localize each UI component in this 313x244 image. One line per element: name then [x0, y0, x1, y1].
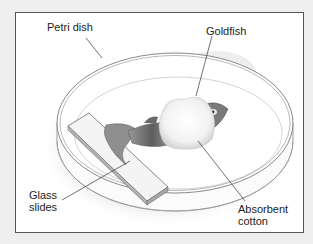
- label-glass-slides: Glass slides: [29, 189, 57, 213]
- petri-dish-illustration: [16, 13, 305, 234]
- label-petri-dish: Petri dish: [47, 21, 93, 33]
- absorbent-cotton: [159, 97, 215, 149]
- label-goldfish: Goldfish: [206, 25, 246, 37]
- label-absorbent-cotton: Absorbent cotton: [238, 203, 288, 227]
- petri-dish-leader: [86, 38, 102, 58]
- figure-frame: Petri dish Goldfish Glass slides Absorbe…: [15, 12, 304, 233]
